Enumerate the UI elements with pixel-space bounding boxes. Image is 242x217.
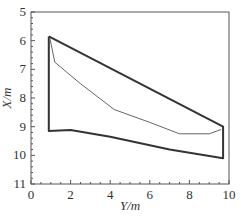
x-tick-label: 10: [223, 187, 236, 202]
chart: 0246810567891011 Y/m X/m: [0, 0, 242, 217]
x-tick-label: 8: [186, 187, 193, 202]
y-axis-label: X/m: [0, 88, 14, 110]
y-tick-label: 10: [13, 147, 26, 162]
x-tick-label: 4: [107, 187, 114, 202]
axis-ticks: [31, 12, 229, 184]
y-tick-label: 11: [13, 176, 26, 191]
y-tick-label: 9: [20, 119, 27, 134]
x-tick-label: 6: [147, 187, 154, 202]
y-tick-label: 8: [20, 90, 27, 105]
plot-frame: [31, 12, 229, 184]
x-axis-label: Y/m: [120, 198, 140, 213]
tick-labels: 0246810567891011: [13, 4, 236, 202]
data-series: [49, 36, 223, 158]
inner-curve-line: [50, 38, 221, 134]
x-tick-label: 0: [28, 187, 35, 202]
outer-boundary-line: [49, 36, 223, 158]
x-tick-label: 2: [67, 187, 74, 202]
y-tick-label: 7: [20, 61, 27, 76]
y-tick-label: 6: [20, 33, 27, 48]
y-tick-label: 5: [20, 4, 27, 19]
